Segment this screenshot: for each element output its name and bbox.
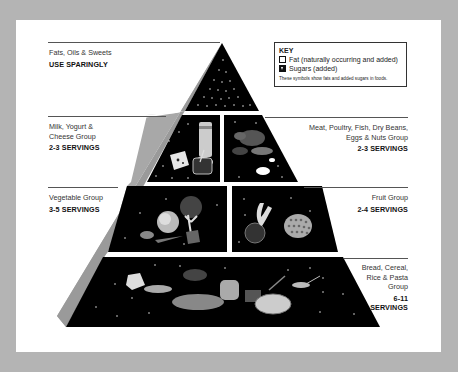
fruit-group-name: Fruit Group <box>357 193 408 203</box>
fat-symbol-icon <box>279 56 286 63</box>
meat-group-name-line1: Meat, Poultry, Fish, Dry Beans, <box>309 123 408 133</box>
legend-key: KEY Fat (naturally occurring and added) … <box>274 42 407 87</box>
key-item-fat-label: Fat (naturally occurring and added) <box>289 55 398 64</box>
fruit-servings: 2-4 SERVINGS <box>357 205 408 215</box>
key-item-sugars: Sugars (added) <box>279 64 402 73</box>
fats-servings: USE SPARINGLY <box>49 60 112 70</box>
sugar-symbol-icon <box>279 65 286 72</box>
rule-milk <box>48 116 166 117</box>
tier-fats <box>185 43 259 111</box>
vegetable-group-name: Vegetable Group <box>49 193 103 203</box>
milk-group-name-line2: Cheese Group <box>49 132 100 142</box>
label-bread: Bread, Cereal, Rice & Pasta Group 6-11 S… <box>362 263 408 313</box>
milk-servings: 2-3 SERVINGS <box>49 143 100 153</box>
tier-fruit <box>232 186 338 252</box>
bread-servings-line1: 6-11 <box>362 294 408 304</box>
key-note: These symbols show fats and added sugars… <box>279 74 402 83</box>
bread-group-name-line3: Group <box>362 282 408 292</box>
label-meat: Meat, Poultry, Fish, Dry Beans, Eggs & N… <box>309 123 408 154</box>
bread-group-name-line1: Bread, Cereal, <box>362 263 408 273</box>
vegetable-servings: 3-5 SERVINGS <box>49 205 103 215</box>
label-vegetable: Vegetable Group 3-5 SERVINGS <box>49 193 103 214</box>
key-title: KEY <box>279 46 402 55</box>
key-item-fat: Fat (naturally occurring and added) <box>279 55 402 64</box>
key-item-sugars-label: Sugars (added) <box>289 64 337 73</box>
rule-vegetable <box>48 187 118 188</box>
rule-fruit <box>304 187 408 188</box>
rule-fats <box>48 42 220 43</box>
meat-group-name-line2: Eggs & Nuts Group <box>309 133 408 143</box>
meat-servings: 2-3 SERVINGS <box>309 144 408 154</box>
rule-bread <box>344 258 408 259</box>
bread-group-name-line2: Rice & Pasta <box>362 273 408 283</box>
bread-servings-line2: SERVINGS <box>362 303 408 313</box>
fats-group-name: Fats, Oils & Sweets <box>49 48 112 58</box>
rule-meat <box>265 117 408 118</box>
label-milk: Milk, Yogurt & Cheese Group 2-3 SERVINGS <box>49 122 100 153</box>
milk-group-name-line1: Milk, Yogurt & <box>49 122 100 132</box>
label-fruit: Fruit Group 2-4 SERVINGS <box>357 193 408 214</box>
label-fats: Fats, Oils & Sweets USE SPARINGLY <box>49 48 112 69</box>
